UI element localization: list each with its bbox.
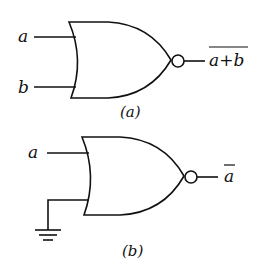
inversion-bubble-a — [172, 55, 184, 67]
caption-a: (a) — [120, 103, 141, 121]
input-label-a: a — [18, 26, 28, 46]
caption-b: (b) — [122, 242, 143, 260]
ground-icon — [35, 230, 61, 240]
inversion-bubble-b — [185, 171, 197, 183]
nor-gate-a-body — [69, 22, 171, 98]
input-label-b: b — [18, 77, 29, 97]
nor-gate-b-body — [82, 137, 184, 215]
ground-wire — [48, 200, 89, 230]
output-label-b: a — [224, 166, 234, 186]
input-label-a-b: a — [28, 142, 38, 162]
nor-gate-diagram: a b a+b (a) a a (b) — [0, 0, 260, 278]
output-label-a: a+b — [209, 50, 244, 70]
gate-b — [47, 137, 235, 230]
